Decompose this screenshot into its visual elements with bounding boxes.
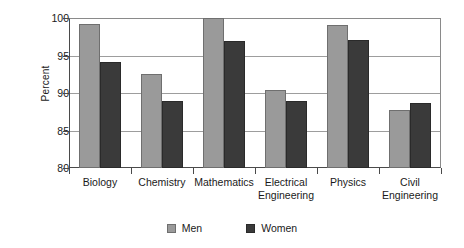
x-axis-label-civil-engineering: CivilEngineering: [367, 176, 453, 201]
bar-group: [318, 18, 380, 168]
bar-group: [194, 18, 256, 168]
legend-label: Men: [182, 222, 202, 234]
bars-layer: [70, 18, 440, 168]
x-tick-mark: [131, 168, 132, 174]
bar-women-biology: [100, 62, 121, 168]
women-swatch-icon: [246, 224, 255, 233]
x-tick-mark: [193, 168, 194, 174]
bar-group: [256, 18, 318, 168]
bar-men-electrical-engineering: [265, 90, 286, 168]
x-tick-mark: [317, 168, 318, 174]
x-tick-mark: [69, 168, 70, 174]
x-axis-label-line: Engineering: [243, 189, 329, 202]
bar-men-biology: [79, 24, 100, 168]
bar-women-civil-engineering: [410, 103, 431, 168]
bar-group: [380, 18, 442, 168]
bar-men-civil-engineering: [389, 110, 410, 168]
bar-women-physics: [348, 40, 369, 168]
bar-women-mathematics: [224, 41, 245, 168]
x-tick-mark: [255, 168, 256, 174]
bar-women-chemistry: [162, 101, 183, 169]
x-axis-label-line: Engineering: [367, 189, 453, 202]
legend: MenWomen: [0, 222, 464, 234]
bar-men-physics: [327, 25, 348, 168]
bar-men-mathematics: [203, 18, 224, 168]
x-tick-mark: [379, 168, 380, 174]
bar-women-electrical-engineering: [286, 101, 307, 169]
bar-men-chemistry: [141, 74, 162, 168]
bar-group: [132, 18, 194, 168]
legend-entry-women: Women: [246, 222, 297, 234]
legend-label: Women: [261, 222, 297, 234]
bar-chart: Percent 80859095100 BiologyChemistryMath…: [0, 0, 464, 248]
x-axis-label-line: Civil: [367, 176, 453, 189]
legend-entry-men: Men: [167, 222, 202, 234]
men-swatch-icon: [167, 224, 176, 233]
bar-group: [70, 18, 132, 168]
x-tick-mark: [441, 168, 442, 174]
